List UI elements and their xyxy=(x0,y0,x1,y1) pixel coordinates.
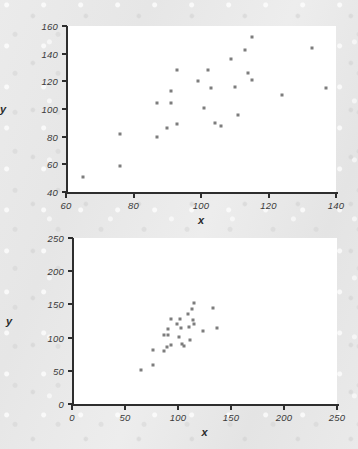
y-axis-tick xyxy=(62,108,67,110)
y-axis-tick xyxy=(62,163,67,165)
data-point xyxy=(203,106,206,109)
data-point xyxy=(186,312,189,315)
data-point xyxy=(119,132,122,135)
data-point xyxy=(175,323,178,326)
data-point xyxy=(230,58,233,61)
y-axis-tick-label: 40 xyxy=(20,187,58,198)
y-axis-title: y xyxy=(0,103,6,115)
data-point xyxy=(187,325,190,328)
y-axis-tick-label: 160 xyxy=(20,21,58,32)
data-point xyxy=(163,333,166,336)
x-axis-title: x xyxy=(201,426,207,438)
y-axis-tick-label: 250 xyxy=(26,233,64,244)
data-point xyxy=(139,369,142,372)
y-axis-tick-label: 140 xyxy=(20,48,58,59)
y-axis-tick xyxy=(68,270,73,272)
data-point xyxy=(119,164,122,167)
x-axis-tick-label: 50 xyxy=(120,412,131,423)
y-axis-tick-label: 120 xyxy=(20,76,58,87)
data-point xyxy=(163,349,166,352)
data-point xyxy=(211,307,214,310)
x-axis-line xyxy=(72,404,339,406)
x-axis-tick xyxy=(71,405,73,410)
x-axis-tick-label: 100 xyxy=(170,412,186,423)
data-point xyxy=(176,69,179,72)
x-axis-tick-label: 120 xyxy=(260,200,276,211)
y-axis-tick xyxy=(68,337,73,339)
x-axis-tick-label: 80 xyxy=(128,200,139,211)
y-axis-title: y xyxy=(6,315,12,327)
x-axis-tick xyxy=(124,405,126,410)
data-point xyxy=(156,102,159,105)
x-axis-tick-label: 140 xyxy=(328,200,344,211)
x-axis-tick xyxy=(65,193,67,198)
y-axis-tick xyxy=(62,136,67,138)
y-axis-tick-label: 50 xyxy=(26,365,64,376)
x-axis-tick-label: 150 xyxy=(223,412,239,423)
x-axis-tick xyxy=(200,193,202,198)
data-point xyxy=(166,127,169,130)
data-point xyxy=(179,318,182,321)
data-point xyxy=(210,87,213,90)
figure-page: 4060801001201401606080100120140yx 050100… xyxy=(0,0,358,449)
y-axis-tick-label: 100 xyxy=(26,332,64,343)
x-axis-tick xyxy=(268,193,270,198)
data-point xyxy=(324,87,327,90)
x-axis-tick xyxy=(177,405,179,410)
data-point xyxy=(250,36,253,39)
data-point xyxy=(243,48,246,51)
x-axis-tick-label: 60 xyxy=(61,200,72,211)
x-axis-line xyxy=(66,192,338,194)
data-point xyxy=(188,339,191,342)
data-point xyxy=(176,123,179,126)
data-point xyxy=(180,326,183,329)
y-axis-tick-label: 150 xyxy=(26,299,64,310)
x-axis-tick xyxy=(133,193,135,198)
data-point xyxy=(206,69,209,72)
data-point xyxy=(192,302,195,305)
x-axis-tick-label: 200 xyxy=(276,412,292,423)
y-axis-tick-label: 200 xyxy=(26,266,64,277)
x-axis-tick-label: 100 xyxy=(193,200,209,211)
data-point xyxy=(237,113,240,116)
y-axis-line xyxy=(72,238,74,406)
data-point xyxy=(169,90,172,93)
x-axis-tick-label: 0 xyxy=(69,412,74,423)
data-point xyxy=(178,335,181,338)
data-point xyxy=(81,175,84,178)
data-point xyxy=(169,318,172,321)
x-axis-tick xyxy=(230,405,232,410)
x-axis-tick xyxy=(336,405,338,410)
data-point xyxy=(190,308,193,311)
plot-area xyxy=(66,26,336,192)
x-axis-title: x xyxy=(198,214,204,226)
data-point xyxy=(169,343,172,346)
x-axis-tick xyxy=(283,405,285,410)
x-axis-tick xyxy=(335,193,337,198)
data-point xyxy=(250,78,253,81)
y-axis-tick-label: 80 xyxy=(20,131,58,142)
data-point xyxy=(183,344,186,347)
data-point xyxy=(151,348,154,351)
data-point xyxy=(220,124,223,127)
data-point xyxy=(167,327,170,330)
data-point xyxy=(192,322,195,325)
y-axis-tick-label: 60 xyxy=(20,159,58,170)
data-point xyxy=(247,72,250,75)
data-point xyxy=(233,85,236,88)
data-point xyxy=(202,329,205,332)
data-point xyxy=(213,121,216,124)
y-axis-tick-label: 100 xyxy=(20,104,58,115)
data-point xyxy=(156,135,159,138)
y-axis-tick xyxy=(62,53,67,55)
y-axis-line xyxy=(66,26,68,194)
data-point xyxy=(167,333,170,336)
data-point xyxy=(151,363,154,366)
data-point xyxy=(216,326,219,329)
y-axis-tick xyxy=(68,303,73,305)
y-axis-tick xyxy=(62,80,67,82)
x-axis-tick-label: 250 xyxy=(329,412,345,423)
y-axis-tick xyxy=(68,370,73,372)
data-point xyxy=(196,80,199,83)
data-point xyxy=(311,47,314,50)
